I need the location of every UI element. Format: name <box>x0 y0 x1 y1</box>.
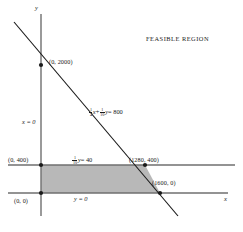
feasible-region-title: FEASIBLE REGION <box>146 36 209 42</box>
fraction-one-tenth: 1 10 <box>72 156 77 165</box>
fraction-one-fourth: 1 4 <box>89 108 92 117</box>
constraint-label-slant: 1 4 x+ 1 10 y= 800 <box>89 108 123 117</box>
vertex-dot-y-intercept <box>39 63 43 67</box>
constraint-label-x-equals-zero: x = 0 <box>22 119 36 125</box>
constraint-label-y-equals-zero: y = 0 <box>74 196 88 202</box>
y-axis-label: y <box>35 5 38 12</box>
constraint-label-horizontal: 1 10 y= 40 <box>72 156 92 165</box>
vertex-dot-upper-right-corner <box>143 163 147 167</box>
fraction-one-tenth: 1 10 <box>100 108 105 117</box>
point-label-y-intercept: (0, 2000) <box>49 59 73 65</box>
feasible-region-figure: y x FEASIBLE REGION (0, 2000) (0, 400) (… <box>0 0 243 232</box>
fraction-denominator: 10 <box>72 160 77 165</box>
point-label-upper-left-corner: (0, 400) <box>8 157 28 163</box>
fraction-denominator: 10 <box>100 112 105 117</box>
point-label-upper-right-corner: (1280, 400) <box>129 157 159 163</box>
vertex-dot-lower-right-corner <box>158 191 162 195</box>
vertex-dot-upper-left-corner <box>39 163 43 167</box>
equals-forty: = 40 <box>81 156 93 163</box>
point-label-origin: (0, 0) <box>14 198 28 204</box>
x-axis-label: x <box>224 196 227 203</box>
point-label-lower-right-corner: (1600, 0) <box>152 180 176 186</box>
fraction-denominator: 4 <box>89 112 92 117</box>
equals-eight-hundred: = 800 <box>108 108 123 115</box>
vertex-dot-origin <box>39 191 43 195</box>
feasible-region-polygon <box>41 165 160 193</box>
